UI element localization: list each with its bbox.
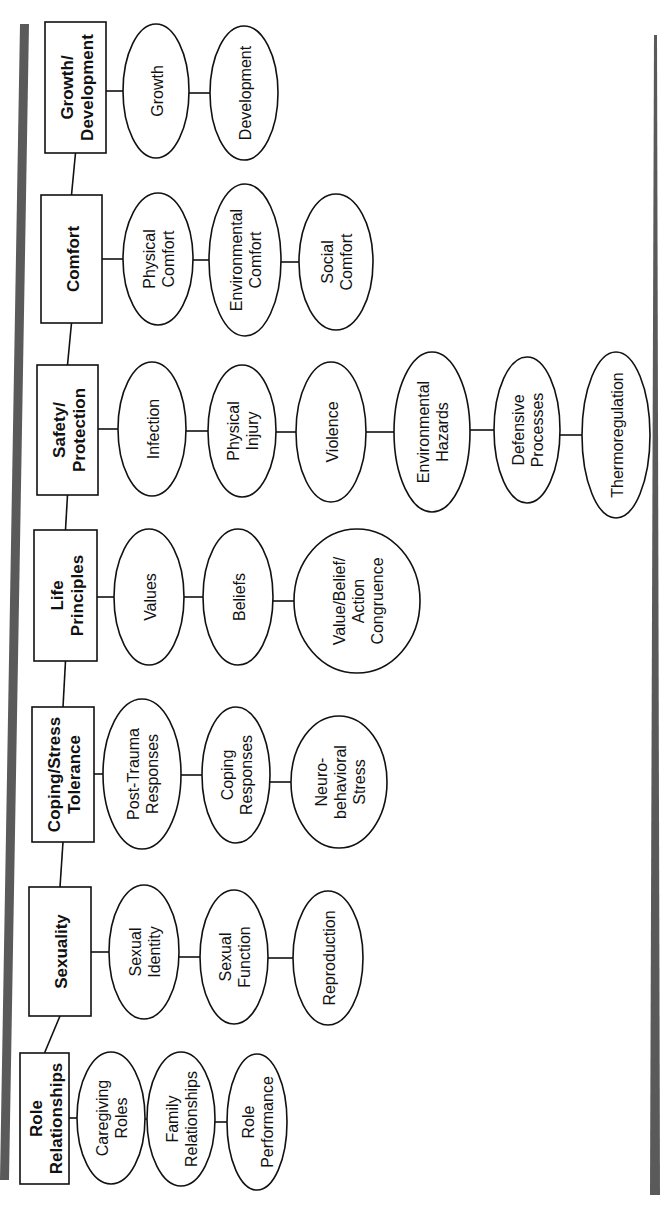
domain-label-sexuality-line: Sexuality — [52, 914, 71, 989]
class-label-physical-comfort-line: Physical — [141, 229, 158, 289]
class-label-neuro-behavioral-stress-line: Stress — [351, 759, 368, 804]
spine-connector — [66, 495, 68, 530]
class-label-reproduction-line: Reproduction — [321, 910, 338, 1005]
class-label-thermoregulation: Thermoregulation — [609, 372, 626, 497]
class-label-social-comfort-line: Social — [319, 240, 336, 284]
class-label-environmental-hazards-line: Hazards — [434, 402, 451, 462]
class-label-growth-line: Growth — [149, 65, 166, 117]
nursing-domains-diagram: Growth/DevelopmentGrowthDevelopmentComfo… — [0, 0, 666, 1208]
class-label-value-belief-action-congruence-line: Congruence — [369, 557, 386, 644]
domain-label-coping-stress-tolerance-line: Coping/Stress — [45, 717, 64, 832]
class-label-physical-injury-line: Physical — [225, 401, 242, 461]
class-label-caregiving-roles-line: Roles — [113, 1098, 130, 1139]
domain-label-role-relationships-line: Role — [27, 1100, 46, 1137]
right-border-bar — [650, 35, 660, 1195]
spine-connector — [60, 842, 63, 887]
class-label-reproduction: Reproduction — [321, 910, 338, 1005]
spine-connector — [63, 661, 66, 707]
spine-connector — [72, 153, 76, 195]
class-label-environmental-comfort-line: Comfort — [247, 231, 264, 288]
class-label-value-belief-action-congruence-line: Value/Belief/ — [331, 556, 348, 645]
class-label-infection-line: Infection — [145, 399, 162, 459]
class-label-defensive-processes-line: Processes — [529, 393, 546, 468]
class-label-environmental-comfort-line: Environmental — [228, 209, 245, 311]
class-label-sexual-identity-line: Identity — [146, 926, 163, 978]
class-label-physical-comfort-line: Comfort — [160, 230, 177, 287]
nodes: Growth/DevelopmentGrowthDevelopmentComfo… — [20, 22, 650, 1190]
class-label-development: Development — [237, 45, 254, 140]
class-label-sexual-identity-line: Sexual — [127, 928, 144, 977]
class-label-coping-responses-line: Responses — [238, 735, 255, 815]
class-label-caregiving-roles-line: Caregiving — [94, 1080, 111, 1156]
class-label-sexual-function-line: Sexual — [217, 933, 234, 982]
domain-label-life-principles-line: Life — [48, 580, 67, 610]
domain-label-safety-protection-line: Protection — [70, 388, 89, 472]
class-label-beliefs-line: Beliefs — [231, 573, 248, 621]
class-label-thermoregulation-line: Thermoregulation — [609, 372, 626, 497]
domain-label-growth-development-line: Development — [78, 34, 97, 141]
class-label-growth: Growth — [149, 65, 166, 117]
left-border-bar — [0, 24, 29, 1180]
spine-connector — [45, 1016, 61, 1053]
class-label-post-trauma-responses-line: Responses — [144, 734, 161, 814]
class-label-environmental-hazards-line: Environmental — [415, 381, 432, 483]
class-label-family-relationships-line: Relationships — [183, 1071, 200, 1167]
class-label-family-relationships-line: Family — [164, 1095, 181, 1142]
class-label-neuro-behavioral-stress-line: behavioral — [332, 745, 349, 819]
class-label-physical-injury-line: Injury — [244, 411, 261, 450]
class-label-beliefs: Beliefs — [231, 573, 248, 621]
domain-label-life-principles-line: Principles — [68, 555, 87, 636]
class-label-role-performance-line: Role — [240, 1105, 257, 1138]
class-label-values-line: Values — [142, 573, 159, 621]
class-label-development-line: Development — [237, 45, 254, 140]
class-label-social-comfort-line: Comfort — [338, 233, 355, 290]
class-label-neuro-behavioral-stress-line: Neuro- — [313, 758, 330, 807]
class-label-defensive-processes-line: Defensive — [510, 394, 527, 465]
class-label-infection: Infection — [145, 399, 162, 459]
class-label-violence-line: Violence — [324, 401, 341, 462]
class-label-violence: Violence — [324, 401, 341, 462]
class-label-coping-responses-line: Coping — [219, 750, 236, 801]
domain-label-growth-development-line: Growth/ — [58, 55, 77, 119]
domain-label-coping-stress-tolerance-line: Tolerance — [65, 735, 84, 814]
class-label-values: Values — [142, 573, 159, 621]
class-label-post-trauma-responses-line: Post-Trauma — [125, 728, 142, 820]
class-label-value-belief-action-congruence-line: Action — [350, 579, 367, 623]
domain-label-sexuality: Sexuality — [52, 914, 71, 989]
spine-connector — [68, 323, 72, 365]
class-label-role-performance-line: Performance — [259, 1076, 276, 1168]
class-label-sexual-function-line: Function — [236, 926, 253, 987]
domain-label-comfort: Comfort — [64, 226, 83, 292]
domain-label-comfort-line: Comfort — [64, 226, 83, 292]
domain-label-safety-protection-line: Safety/ — [50, 402, 69, 458]
domain-label-role-relationships-line: Relationships — [47, 1063, 66, 1174]
